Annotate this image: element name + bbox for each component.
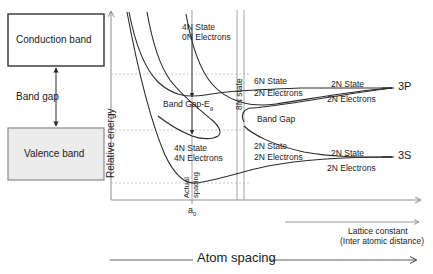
annotation-2n-state-2n-electrons-3p-line2: 2N Electrons — [327, 94, 376, 104]
annotation-band-gap: Band Gap — [257, 114, 295, 124]
x-tick-a0-subscript: 0 — [193, 211, 196, 217]
lattice-constant-label-line1: Lattice constant — [348, 226, 408, 236]
level-label-3s: 3S — [398, 150, 411, 160]
annotation-6n-state-2n-electrons-line1: 6N State — [254, 76, 287, 86]
annotation-4n-state-4n-electrons-line1: 4N State — [174, 143, 207, 153]
band-gap-eg-subscript: g — [210, 105, 213, 111]
guide-lines — [111, 74, 250, 183]
annotation-2n-state-2n-electrons-lower-line2: 2N Electrons — [254, 152, 303, 162]
actual-spacing-label-line2: spacing — [191, 172, 201, 198]
annotation-band-gap-eg: Band Gap-Eg — [163, 99, 213, 113]
annotation-2n-state-2n-electrons-3s-line2: 2N Electrons — [327, 163, 376, 173]
x-tick-label-a0: a0 — [188, 205, 196, 219]
annotation-2n-state-2n-electrons-lower-line1: 2N State — [254, 141, 287, 151]
lattice-constant-label-line2: (Inter atomic distance) — [340, 236, 424, 246]
atom-spacing-caption: Atom spacing — [197, 253, 276, 263]
annotation-4n-state-0n-electrons-line2: 0N Electrons — [182, 32, 231, 42]
band-gap-eg-text: Band Gap-E — [163, 99, 210, 109]
annotation-8n-state: 8N state — [234, 78, 244, 110]
annotation-4n-state-0n-electrons-line1: 4N State — [182, 22, 215, 32]
y-axis-label: Relative energy — [106, 109, 116, 178]
annotation-4n-state-4n-electrons-line2: 4N Electrons — [174, 153, 223, 163]
level-ticks — [382, 88, 394, 157]
diagram-canvas: Conduction band Band gap Valence band Re… — [0, 0, 433, 274]
annotation-2n-state-2n-electrons-3p-line1: 2N State — [331, 79, 364, 89]
annotation-2n-state-2n-electrons-3s-line1: 2N State — [331, 148, 364, 158]
conduction-band-label: Conduction band — [16, 34, 92, 45]
band-gap-label: Band gap — [16, 91, 59, 102]
valence-band-label: Valence band — [24, 148, 84, 159]
annotation-6n-state-2n-electrons-line2: 2N Electrons — [254, 88, 303, 98]
level-label-3p: 3P — [398, 81, 411, 91]
